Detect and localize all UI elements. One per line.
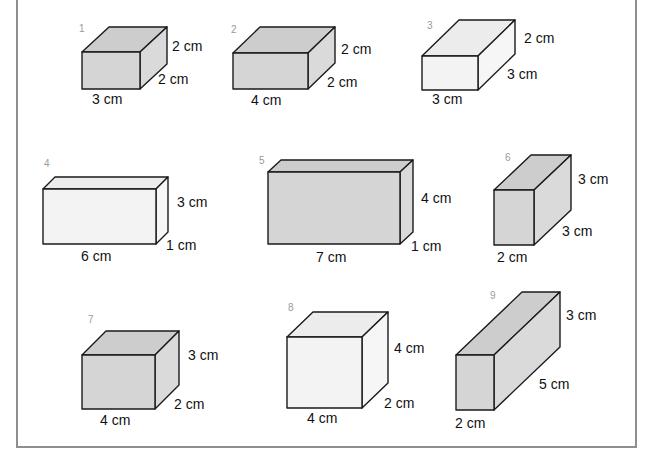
cuboid-box-7: 73 cm2 cm4 cm: [82, 314, 218, 428]
cuboid-front-face: [494, 190, 534, 245]
cuboid-top-face: [268, 160, 413, 172]
cuboid-box-1: 12 cm2 cm3 cm: [79, 23, 202, 107]
box-number-label: 6: [505, 152, 511, 163]
cuboid-top-face: [43, 177, 168, 189]
cuboid-front-face: [233, 53, 308, 89]
box-number-label: 3: [427, 20, 433, 31]
cuboid-box-4: 43 cm1 cm6 cm: [43, 158, 207, 264]
dimension-label-depth: 3 cm: [507, 66, 537, 82]
cuboid-front-face: [456, 355, 494, 410]
dimension-label-depth: 2 cm: [327, 74, 357, 90]
cuboid-front-face: [43, 189, 156, 244]
dimension-label-length: 6 cm: [81, 248, 111, 264]
dimension-label-height: 4 cm: [421, 190, 451, 206]
box-number-label: 5: [259, 155, 265, 166]
cuboid-side-face: [156, 177, 168, 244]
box-number-label: 9: [490, 290, 496, 301]
cuboid-front-face: [82, 355, 155, 409]
box-number-label: 2: [231, 24, 237, 35]
cuboid-box-5: 54 cm1 cm7 cm: [259, 155, 451, 265]
box-number-label: 7: [88, 314, 94, 325]
cuboid-box-8: 84 cm2 cm4 cm: [287, 302, 424, 426]
dimension-label-height: 3 cm: [177, 194, 207, 210]
dimension-label-depth: 2 cm: [384, 395, 414, 411]
dimension-label-depth: 1 cm: [166, 237, 196, 253]
box-number-label: 8: [288, 302, 294, 313]
dimension-label-length: 2 cm: [497, 249, 527, 265]
dimension-label-height: 3 cm: [188, 347, 218, 363]
dimension-label-height: 2 cm: [172, 38, 202, 54]
cuboid-side-face: [400, 160, 413, 244]
dimension-label-height: 2 cm: [524, 30, 554, 46]
dimension-label-length: 4 cm: [100, 412, 130, 428]
dimension-label-length: 3 cm: [92, 91, 122, 107]
dimension-label-length: 3 cm: [432, 91, 462, 107]
dimension-label-depth: 2 cm: [158, 71, 188, 87]
dimension-label-height: 2 cm: [341, 41, 371, 57]
cuboid-front-face: [422, 56, 478, 90]
dimension-label-length: 2 cm: [455, 415, 485, 431]
dimension-label-length: 4 cm: [307, 410, 337, 426]
dimension-label-depth: 1 cm: [411, 238, 441, 254]
dimension-label-depth: 2 cm: [174, 396, 204, 412]
cuboid-box-6: 63 cm3 cm2 cm: [494, 152, 608, 265]
cuboid-box-2: 22 cm2 cm4 cm: [231, 24, 371, 108]
dimension-label-height: 3 cm: [566, 307, 596, 323]
dimension-label-depth: 5 cm: [539, 376, 569, 392]
cuboid-front-face: [268, 172, 400, 244]
dimension-label-length: 7 cm: [316, 249, 346, 265]
cuboid-front-face: [287, 337, 362, 408]
dimension-label-length: 4 cm: [251, 92, 281, 108]
dimension-label-height: 3 cm: [578, 171, 608, 187]
box-number-label: 4: [44, 158, 50, 169]
cuboid-box-9: 93 cm5 cm2 cm: [455, 290, 596, 431]
cuboid-box-3: 32 cm3 cm3 cm: [422, 20, 554, 107]
dimension-label-height: 4 cm: [394, 340, 424, 356]
box-number-label: 1: [79, 23, 85, 34]
cuboid-front-face: [82, 52, 140, 89]
dimension-label-depth: 3 cm: [562, 223, 592, 239]
cuboid-diagram: 12 cm2 cm3 cm22 cm2 cm4 cm32 cm3 cm3 cm4…: [0, 0, 652, 449]
